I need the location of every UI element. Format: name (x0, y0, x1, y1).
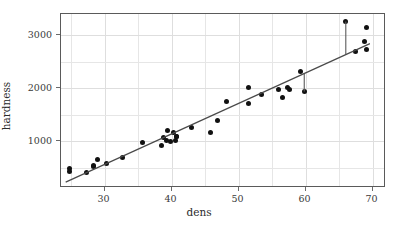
x-axis-label: dens (0, 206, 398, 218)
y-tick-label: 1000 (14, 135, 52, 146)
x-tick-label: 50 (232, 193, 244, 204)
y-tick-mark (56, 34, 60, 35)
scatter-plot-figure: 3040506070 100020003000 dens hardness (0, 0, 398, 227)
y-tick-mark (56, 87, 60, 88)
y-tick-label: 2000 (14, 82, 52, 93)
x-tick-mark (104, 187, 105, 191)
x-tick-label: 40 (165, 193, 177, 204)
regression-layer (61, 14, 384, 186)
x-tick-mark (171, 187, 172, 191)
x-tick-mark (372, 187, 373, 191)
x-tick-label: 70 (366, 193, 378, 204)
regression-line (66, 44, 370, 182)
x-tick-label: 60 (299, 193, 311, 204)
plot-area (60, 13, 385, 187)
y-tick-mark (56, 140, 60, 141)
y-axis-label: hardness (0, 82, 12, 131)
y-tick-label: 3000 (14, 29, 52, 40)
x-tick-label: 30 (98, 193, 110, 204)
x-tick-mark (238, 187, 239, 191)
x-tick-mark (305, 187, 306, 191)
